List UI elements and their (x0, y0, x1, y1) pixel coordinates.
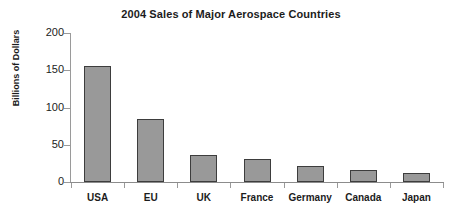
bar-chart: 2004 Sales of Major Aerospace Countries … (0, 0, 462, 218)
y-axis-tick-label: 100 (20, 101, 64, 113)
y-axis-tick: 100 (14, 108, 64, 109)
x-axis-tick-mark (177, 183, 178, 188)
chart-title: 2004 Sales of Major Aerospace Countries (0, 8, 462, 20)
x-axis-tick-mark (71, 183, 72, 188)
y-axis-tick-mark (64, 108, 70, 109)
x-axis-line (70, 182, 444, 183)
x-axis-tick-mark (443, 183, 444, 188)
bar-canada (350, 170, 377, 182)
bar-uk (190, 155, 217, 182)
y-axis-tick-mark (64, 182, 70, 183)
bar-germany (297, 166, 324, 182)
y-axis-tick-label: 50 (20, 138, 64, 150)
y-axis-tick: 50 (14, 145, 64, 146)
y-axis-tick-mark (64, 33, 70, 34)
y-axis-tick-mark (64, 70, 70, 71)
y-axis-tick-label: 0 (20, 175, 64, 187)
x-axis-tick-mark (390, 183, 391, 188)
bar-eu (137, 119, 164, 182)
plot-area (71, 33, 443, 182)
x-axis-tick-mark (284, 183, 285, 188)
bar-usa (84, 66, 111, 182)
x-axis-tick-mark (124, 183, 125, 188)
y-axis-tick-label: 200 (20, 26, 64, 38)
y-axis-tick-label: 150 (20, 63, 64, 75)
bar-japan (403, 173, 430, 182)
y-axis-tick: 150 (14, 70, 64, 71)
y-axis-tick: 0 (14, 182, 64, 183)
y-axis-tick-mark (64, 145, 70, 146)
x-axis-label-japan: Japan (376, 192, 456, 203)
bar-france (244, 159, 271, 182)
x-axis-tick-mark (230, 183, 231, 188)
y-axis-tick: 200 (14, 33, 64, 34)
x-axis-tick-mark (337, 183, 338, 188)
